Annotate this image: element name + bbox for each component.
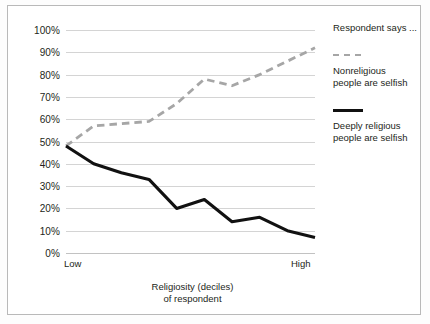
y-axis-tick-label: 20% [40, 203, 60, 214]
legend-entry-deeply-religious: Deeply religious people are selfish [333, 109, 415, 144]
legend-label-deeply-religious-line1: Deeply religious [333, 120, 415, 132]
y-axis-tick-label: 100% [34, 25, 60, 36]
y-axis-tick-label: 40% [40, 158, 60, 169]
gridline [66, 253, 315, 254]
y-axis-tick-label: 0% [45, 248, 60, 259]
y-axis-tick-label: 70% [40, 91, 60, 102]
y-axis-tick-label: 80% [40, 69, 60, 80]
plot-area [66, 30, 315, 253]
x-axis-title: Religiosity (deciles) of respondent [110, 281, 275, 305]
legend: Respondent says ... Nonreligious people … [333, 22, 415, 164]
solid-line-swatch-icon [333, 109, 363, 112]
legend-label-nonreligious-line1: Nonreligious [333, 65, 415, 77]
dashed-line-swatch-icon [333, 54, 361, 56]
y-axis-tick-label: 90% [40, 47, 60, 58]
legend-label-nonreligious-line2: people are selfish [333, 77, 415, 89]
legend-entry-nonreligious: Nonreligious people are selfish [333, 54, 415, 89]
x-axis-label-low: Low [64, 258, 81, 269]
legend-label-deeply-religious-line2: people are selfish [333, 132, 415, 144]
x-axis-title-line2: of respondent [110, 293, 275, 305]
legend-label-deeply-religious: Deeply religious people are selfish [333, 120, 415, 144]
x-axis-title-line1: Religiosity (deciles) [110, 281, 275, 293]
series-line [66, 146, 315, 237]
x-axis-label-high: High [291, 258, 311, 269]
legend-label-nonreligious: Nonreligious people are selfish [333, 65, 415, 89]
chart-screenshot: 0%10%20%30%40%50%60%70%80%90%100% Low Hi… [0, 0, 430, 324]
y-axis-tick-label: 30% [40, 181, 60, 192]
series-lines [66, 30, 315, 253]
y-axis-tick-labels: 0%10%20%30%40%50%60%70%80%90%100% [0, 30, 60, 253]
y-axis-tick-label: 60% [40, 114, 60, 125]
legend-title: Respondent says ... [333, 22, 415, 33]
y-axis-tick-label: 10% [40, 225, 60, 236]
series-line [66, 48, 315, 146]
y-axis-tick-label: 50% [40, 136, 60, 147]
